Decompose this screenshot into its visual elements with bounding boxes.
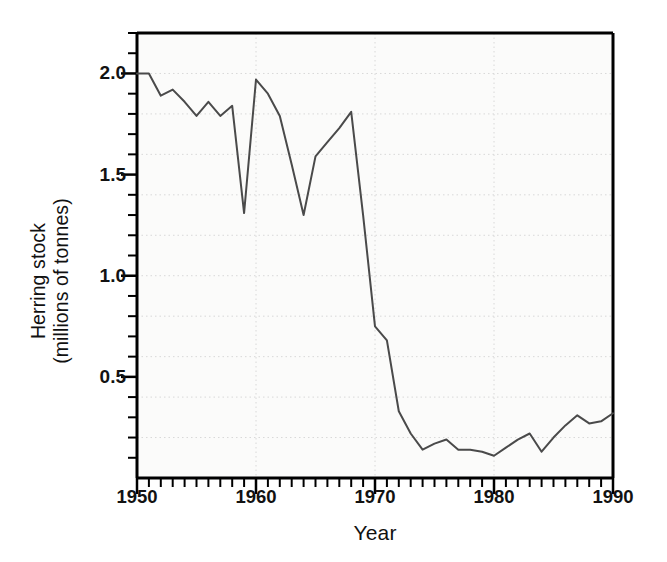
y-tick-label: 1.5 xyxy=(100,164,126,186)
x-tick-label: 1990 xyxy=(592,486,633,508)
y-axis-title-line-1: Herring stock xyxy=(27,223,50,339)
x-tick-label: 1960 xyxy=(235,486,276,508)
y-axis-title-line-2: (millions of tonnes) xyxy=(50,198,73,364)
x-tick-label: 1980 xyxy=(473,486,514,508)
y-tick-label: 0.5 xyxy=(100,366,126,388)
y-tick-label: 2.0 xyxy=(100,62,126,84)
y-axis-title: Herring stock (millions of tonnes) xyxy=(25,121,75,441)
x-axis-title: Year xyxy=(137,521,613,545)
x-tick-label: 1970 xyxy=(354,486,395,508)
x-tick-label: 1950 xyxy=(116,486,157,508)
x-axis-tick-labels: 19501960197019801990 xyxy=(0,486,667,516)
y-tick-label: 1.0 xyxy=(100,265,126,287)
figure: 0.51.01.52.0 19501960197019801990 Herrin… xyxy=(0,0,667,562)
